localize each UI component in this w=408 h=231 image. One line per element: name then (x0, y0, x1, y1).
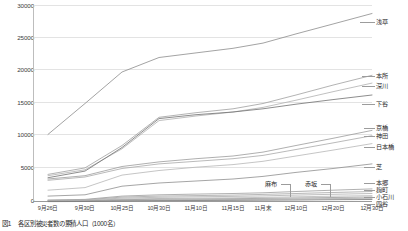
leader-line (362, 86, 375, 87)
x-tick-label: 11月10日 (185, 205, 208, 212)
leader-line (364, 190, 375, 191)
x-tick-label: 9月30日 (75, 205, 95, 212)
callout-arm (281, 184, 290, 185)
x-tick-label: 9月26日 (38, 205, 58, 212)
callout-arm (321, 184, 330, 185)
series-label-koishikawa: 小石川 (376, 193, 393, 200)
y-tick-label: 20000 (3, 66, 34, 73)
y-tick-label: 10000 (3, 131, 34, 138)
caption-text: 各区別被災者数の累積人口（1000名） (18, 220, 118, 227)
series-label-honjo: 本所 (376, 72, 388, 79)
x-tick-label: 10月30日 (147, 205, 170, 212)
leader-line (364, 167, 375, 168)
leader-line (364, 183, 375, 184)
leader-line (364, 136, 375, 137)
y-tick-label: 0 (3, 197, 34, 204)
leader-line (364, 147, 375, 148)
leader-line (362, 76, 375, 77)
leader-line (364, 204, 375, 205)
figure-container: 30000 25000 20000 15000 10000 5000 0 9月2… (0, 0, 408, 231)
callout-stem (290, 184, 291, 197)
figure-caption: 図1各区別被災者数の累積人口（1000名） (2, 219, 119, 228)
x-tick-label: 11月15日 (222, 205, 245, 212)
series-line (48, 164, 372, 196)
series-label-shiba: 芝 (376, 163, 382, 170)
series-label-shitaya: 下谷 (376, 100, 388, 107)
callout-label-azabu: 麻布 (265, 180, 277, 187)
series-line (48, 14, 372, 135)
leader-line (364, 128, 375, 129)
x-tick-label: 12月10日 (284, 205, 307, 212)
y-tick-label: 25000 (3, 34, 34, 41)
series-label-yotsuya: 四谷 (376, 200, 388, 207)
series-line (48, 75, 372, 174)
series-label-kojimachi: 麹町 (376, 186, 388, 193)
callout-label-akasaka: 赤坂 (305, 180, 317, 187)
series-label-kyobashi: 京橋 (376, 124, 388, 131)
leader-line (364, 197, 375, 198)
series-line (48, 130, 372, 179)
caption-number: 図1 (2, 220, 11, 227)
leader-line (362, 104, 375, 105)
series-line (48, 95, 372, 178)
x-tick-label: 10月25日 (110, 205, 133, 212)
series-label-nihonbashi: 日本橋 (376, 143, 393, 150)
series-line (48, 83, 372, 176)
y-tick-label: 15000 (3, 99, 34, 106)
x-tick-label: 11月末 (254, 205, 271, 212)
y-tick-label: 5000 (3, 164, 34, 171)
series-label-kanda: 神田 (376, 132, 388, 139)
series-label-asakusa: 浅草 (376, 18, 388, 25)
y-tick-label: 30000 (3, 2, 34, 9)
series-lines (33, 5, 372, 202)
leader-line (360, 22, 375, 23)
x-tick-label: 12月20日 (321, 205, 344, 212)
series-label-fukagawa: 深川 (376, 82, 388, 89)
callout-stem (330, 184, 331, 197)
series-label-hongo: 本郷 (376, 179, 388, 186)
